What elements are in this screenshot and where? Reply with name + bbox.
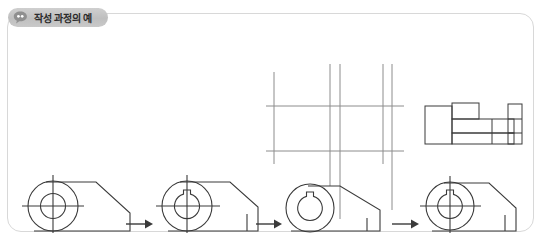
construction-lines-group xyxy=(266,64,404,219)
arrow-step3-to-step4 xyxy=(392,220,419,229)
side-view-lower-strip xyxy=(452,133,514,144)
section-tab[interactable]: 작성 과정의 예 xyxy=(8,8,108,27)
side-view-upper-block xyxy=(452,103,479,119)
drafting-diagram xyxy=(8,14,535,233)
screenshot-root: 작성 과정의 예 xyxy=(0,0,544,246)
arrow-step2-to-step3 xyxy=(256,220,282,229)
step-4-final xyxy=(420,176,516,233)
speech-bubble-icon xyxy=(13,11,28,24)
step-3-outer-circle xyxy=(286,184,334,232)
step-3-projection xyxy=(286,184,380,232)
side-view-base-plate xyxy=(452,119,514,133)
step-3-inner-bore-with-keyway xyxy=(298,192,323,220)
side-view-end-boss xyxy=(508,104,522,144)
section-tab-label: 작성 과정의 예 xyxy=(34,10,92,25)
step-1-outline xyxy=(22,175,130,233)
side-view-flange-block xyxy=(425,106,452,144)
side-view-projection xyxy=(425,103,522,144)
example-panel xyxy=(7,13,534,232)
step-2-keyway xyxy=(156,175,258,233)
